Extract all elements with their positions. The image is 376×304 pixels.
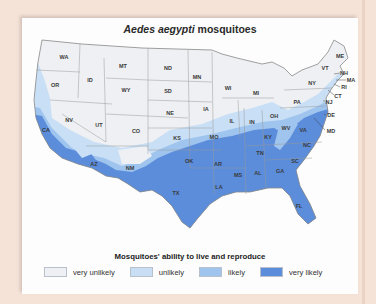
state-label-il: IL <box>230 118 235 124</box>
state-label-wv: WV <box>282 125 291 131</box>
state-label-id: ID <box>87 77 93 83</box>
state-label-fl: FL <box>296 203 303 209</box>
legend-title: Mosquitoes' ability to live and reproduc… <box>22 252 358 261</box>
state-label-az: AZ <box>90 161 97 167</box>
state-label-wa: WA <box>60 54 69 60</box>
state-label-ok: OK <box>185 158 193 164</box>
legend-label: very likely <box>289 268 322 277</box>
state-label-co: CO <box>132 128 140 134</box>
map-figure: Aedes aegypti mosquitoes <box>22 18 358 294</box>
state-label-nm: NM <box>126 165 135 171</box>
legend-label: likely <box>228 268 245 277</box>
state-label-mt: MT <box>119 63 127 69</box>
us-map <box>22 18 358 248</box>
state-label-or: OR <box>51 82 59 88</box>
legend-label: unlikely <box>159 268 184 277</box>
state-label-vt: VT <box>321 65 328 71</box>
state-label-mi: MI <box>253 90 259 96</box>
book-gutter <box>362 0 365 304</box>
swatch-very-likely <box>260 267 283 277</box>
state-label-mn: MN <box>193 74 202 80</box>
legend: very unlikely unlikely likely very likel… <box>44 267 337 277</box>
state-label-nj: NJ <box>325 99 332 105</box>
legend-item-very-unlikely: very unlikely <box>44 267 115 277</box>
swatch-unlikely <box>130 267 153 277</box>
state-label-ri: RI <box>341 84 347 90</box>
state-label-ca: CA <box>42 127 50 133</box>
state-label-wi: WI <box>225 85 232 91</box>
legend-item-very-likely: very likely <box>260 267 322 277</box>
state-label-in: IN <box>249 119 255 125</box>
swatch-likely <box>199 267 222 277</box>
legend-label: very unlikely <box>73 268 115 277</box>
state-label-ut: UT <box>95 122 102 128</box>
state-label-me: ME <box>336 53 344 59</box>
state-label-va: VA <box>299 127 306 133</box>
state-label-ct: CT <box>334 93 341 99</box>
legend-item-likely: likely <box>199 267 245 277</box>
state-label-ks: KS <box>173 135 181 141</box>
state-label-tn: TN <box>256 150 263 156</box>
state-label-nv: NV <box>65 117 73 123</box>
state-label-ny: NY <box>308 80 316 86</box>
swatch-very-unlikely <box>44 267 67 277</box>
state-label-md: MD <box>327 128 336 134</box>
state-label-ms: MS <box>234 172 242 178</box>
state-label-ne: NE <box>166 110 174 116</box>
state-label-sd: SD <box>164 88 172 94</box>
state-label-ga: GA <box>276 168 284 174</box>
state-label-sc: SC <box>291 158 299 164</box>
state-label-de: DE <box>327 112 335 118</box>
legend-item-unlikely: unlikely <box>130 267 184 277</box>
state-label-nd: ND <box>164 65 172 71</box>
state-label-oh: OH <box>270 113 278 119</box>
state-label-nh: NH <box>340 70 348 76</box>
state-label-tx: TX <box>172 190 179 196</box>
state-label-ma: MA <box>347 77 356 83</box>
state-label-la: LA <box>215 184 222 190</box>
state-label-pa: PA <box>293 99 300 105</box>
state-label-al: AL <box>254 170 261 176</box>
state-label-nc: NC <box>303 142 311 148</box>
state-label-ky: KY <box>264 134 272 140</box>
state-label-ia: IA <box>203 106 209 112</box>
state-label-wy: WY <box>122 87 131 93</box>
state-label-mo: MO <box>210 134 219 140</box>
state-label-ar: AR <box>214 161 222 167</box>
